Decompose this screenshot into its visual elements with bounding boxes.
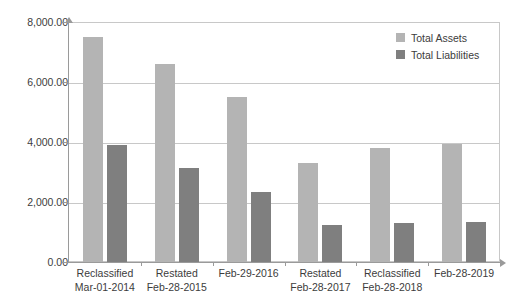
legend-item[interactable]: Total Assets [396,31,479,44]
x-axis-category-line: Feb-28-2017 [285,280,357,294]
x-axis-category-line: Feb-28-2018 [356,280,428,294]
y-axis-tick-label: 0.00 [6,256,68,268]
bar-total-liabilities[interactable] [394,223,414,262]
bar-total-assets[interactable] [298,163,318,262]
y-axis: 0.002,000.004,000.006,000.008,000.00 [0,0,68,301]
x-axis-tick-mark [428,262,429,266]
y-axis-tick-label: 6,000.00 [6,76,68,88]
legend-swatch-icon [396,50,405,59]
x-axis-category-label: ReclassifiedMar-01-2014 [69,266,141,294]
bar-total-liabilities[interactable] [251,192,271,262]
x-axis-tick-mark [141,262,142,266]
bar-total-assets[interactable] [370,148,390,262]
bar-total-assets[interactable] [155,64,175,262]
x-axis-category-line: Reclassified [356,266,428,280]
x-axis-category-line: Reclassified [69,266,141,280]
legend-label: Total Liabilities [411,49,479,61]
y-axis-tick-label: 4,000.00 [6,136,68,148]
bar-total-liabilities[interactable] [179,168,199,262]
x-axis-category-line: Feb-28-2019 [428,266,500,280]
legend-swatch-icon [396,33,405,42]
x-axis-tick-mark [213,262,214,266]
x-axis-category-label: Feb-28-2019 [428,266,500,280]
bar-total-assets[interactable] [227,97,247,262]
bar-group [213,22,285,262]
x-axis-category-line: Feb-29-2016 [213,266,285,280]
x-axis-arrow-icon [500,259,506,267]
bar-group [141,22,213,262]
x-axis-category-label: RestatedFeb-28-2017 [285,266,357,294]
bar-total-assets[interactable] [442,144,462,263]
bar-total-liabilities[interactable] [107,145,127,262]
bar-group [285,22,357,262]
legend-label: Total Assets [411,32,467,44]
x-axis-category-label: ReclassifiedFeb-28-2018 [356,266,428,294]
bar-group [69,22,141,262]
x-axis-category-line: Mar-01-2014 [69,280,141,294]
bar-total-liabilities[interactable] [466,222,486,263]
x-axis-tick-mark [356,262,357,266]
bar-total-assets[interactable] [83,37,103,262]
x-axis-category-line: Feb-28-2015 [141,280,213,294]
legend-item[interactable]: Total Liabilities [396,48,479,61]
bar-chart: 0.002,000.004,000.006,000.008,000.00 Rec… [0,0,507,301]
x-axis-tick-mark [285,262,286,266]
bar-total-liabilities[interactable] [322,225,342,263]
x-axis-category-line: Restated [141,266,213,280]
x-axis: ReclassifiedMar-01-2014RestatedFeb-28-20… [69,266,500,300]
y-axis-tick-label: 2,000.00 [6,196,68,208]
chart-legend: Total AssetsTotal Liabilities [396,31,479,65]
x-axis-category-line: Restated [285,266,357,280]
y-axis-tick-label: 8,000.00 [6,16,68,28]
x-axis-category-label: Feb-29-2016 [213,266,285,280]
x-axis-category-label: RestatedFeb-28-2015 [141,266,213,294]
